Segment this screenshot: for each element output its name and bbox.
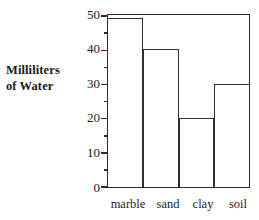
plot-area (107, 14, 250, 188)
x-axis-tick-labels: marble sand clay soil (100, 197, 259, 215)
y-major-tick-10 (101, 152, 108, 154)
y-tick-label-50: 50 (72, 8, 100, 21)
y-major-tick-50 (101, 15, 108, 17)
y-major-tick-30 (101, 84, 108, 86)
bar-chart-figure: Milliliters of Water 0 10 20 30 40 50 (0, 0, 259, 220)
y-tick-label-20: 20 (72, 111, 100, 124)
x-tick-label-marble: marble (107, 197, 149, 211)
x-tick-label-soil: soil (218, 197, 258, 211)
y-major-tick-0 (101, 186, 108, 188)
x-tick-label-clay: clay (183, 197, 223, 211)
bar-group (108, 15, 249, 187)
bar-sand[interactable] (143, 49, 178, 187)
y-tick-label-10: 10 (72, 146, 100, 159)
y-tick-label-40: 40 (72, 42, 100, 55)
x-tick-label-sand: sand (148, 197, 188, 211)
bar-clay[interactable] (179, 118, 214, 187)
y-tick-label-30: 30 (72, 77, 100, 90)
bar-marble[interactable] (108, 18, 143, 187)
y-major-tick-20 (101, 118, 108, 120)
y-major-tick-40 (101, 50, 108, 52)
y-axis-tick-labels: 0 10 20 30 40 50 (72, 0, 100, 220)
bar-soil[interactable] (214, 84, 249, 187)
y-tick-label-0: 0 (72, 181, 100, 194)
